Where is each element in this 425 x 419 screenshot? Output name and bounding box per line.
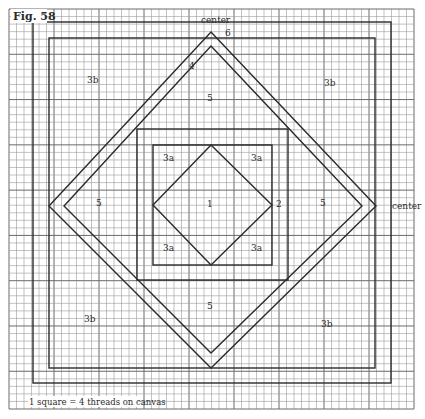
- label-region-5-left: 5: [96, 198, 102, 208]
- label-region-5-right: 5: [320, 198, 326, 208]
- label-region-4: 4: [189, 61, 195, 71]
- label-region-3a-br: 3a: [251, 243, 263, 253]
- label-region-5-bottom: 5: [207, 301, 213, 311]
- label-region-5-top: 5: [207, 93, 213, 103]
- label-center-right: center: [392, 201, 422, 211]
- label-region-2: 2: [276, 199, 282, 209]
- figure-title: Fig. 58: [13, 10, 56, 23]
- label-region-6: 6: [225, 28, 231, 38]
- label-center-top: center: [201, 15, 231, 25]
- label-region-3b-br: 3b: [321, 319, 333, 329]
- chart-canvas: Fig. 58 center center 6 4 5 5 5 5 3b 3b …: [0, 0, 425, 419]
- label-region-3a-bl: 3a: [163, 243, 175, 253]
- grid-lines: [9, 9, 414, 409]
- label-region-3b-bl: 3b: [84, 314, 96, 324]
- label-region-3b-tr: 3b: [324, 78, 336, 88]
- label-region-3a-tr: 3a: [251, 153, 263, 163]
- label-region-1: 1: [207, 199, 213, 209]
- needlepoint-chart: Fig. 58 center center 6 4 5 5 5 5 3b 3b …: [0, 0, 425, 419]
- figure-caption: 1 square = 4 threads on canvas: [29, 397, 166, 407]
- label-region-3b-tl: 3b: [87, 75, 99, 85]
- label-region-3a-tl: 3a: [163, 153, 175, 163]
